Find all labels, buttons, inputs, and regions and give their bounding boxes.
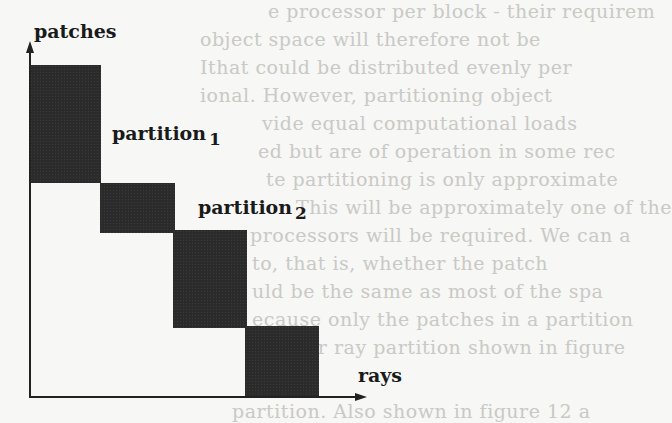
partition-1-text: partition (112, 122, 206, 144)
partition-2-subscript: 2 (295, 203, 307, 223)
partition-1-label: partition1 (112, 122, 221, 149)
partition-2-text: partition (198, 196, 292, 218)
partition-2-label: partition2 (198, 196, 307, 223)
y-axis-label: patches (34, 20, 117, 42)
partition-1-subscript: 1 (209, 129, 221, 149)
y-axis-arrow-icon (26, 41, 34, 53)
x-axis-arrow-icon (355, 393, 367, 401)
x-axis-label: rays (358, 364, 402, 386)
